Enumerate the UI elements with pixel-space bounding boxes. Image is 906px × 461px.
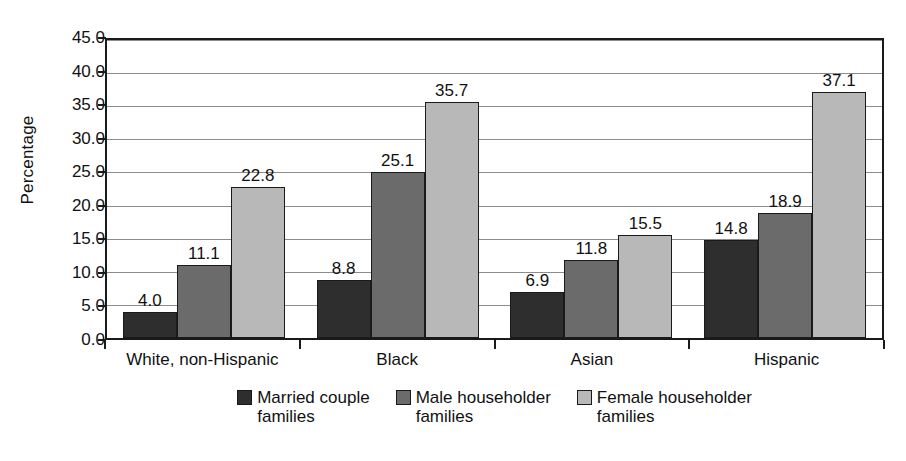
bar[interactable]: 15.5: [618, 235, 672, 338]
bar[interactable]: 11.1: [177, 265, 231, 339]
y-tick-label: 25.0: [41, 162, 105, 182]
plot-area: 4.011.122.88.825.135.76.911.815.514.818.…: [105, 38, 884, 340]
bar[interactable]: 22.8: [231, 187, 285, 338]
legend-label-line1: Married couple: [257, 388, 369, 407]
bar-value-label: 14.8: [715, 219, 748, 239]
legend-label: Married couplefamilies: [257, 388, 369, 426]
x-tick-mark: [299, 340, 301, 349]
y-tick-label: 20.0: [41, 196, 105, 216]
bar-slot: 4.0: [123, 40, 177, 338]
legend-item[interactable]: Married couplefamilies: [237, 388, 369, 426]
bar[interactable]: 8.8: [317, 280, 371, 338]
bar-value-label: 11.8: [575, 239, 607, 259]
bar-slot: 8.8: [317, 40, 371, 338]
bar-value-label: 22.8: [241, 166, 274, 186]
bar-value-label: 11.1: [188, 244, 220, 264]
bar-slot: 37.1: [812, 40, 866, 338]
bar[interactable]: 37.1: [812, 92, 866, 338]
bar-chart-figure: Percentage 0.05.010.015.020.025.030.035.…: [0, 0, 906, 461]
bar-slot: 11.8: [564, 40, 618, 338]
bar-slot: 11.1: [177, 40, 231, 338]
bar-group: 14.818.937.1: [688, 40, 882, 338]
x-axis-category-label: Hispanic: [689, 350, 884, 370]
legend-swatch-icon: [237, 390, 252, 405]
bar-value-label: 15.5: [629, 214, 662, 234]
x-axis-ticks: [105, 340, 884, 350]
y-tick-label: 5.0: [41, 296, 105, 316]
bar[interactable]: 6.9: [510, 292, 564, 338]
bar-group: 8.825.135.7: [301, 40, 495, 338]
bar-value-label: 25.1: [381, 151, 414, 171]
y-tick-label: 15.0: [41, 229, 105, 249]
bar-value-label: 4.0: [138, 291, 162, 311]
bar[interactable]: 14.8: [704, 240, 758, 338]
bar-value-label: 37.1: [823, 71, 856, 91]
bar[interactable]: 18.9: [758, 213, 812, 338]
bar-slot: 14.8: [704, 40, 758, 338]
legend-label-line2: families: [257, 407, 369, 426]
bar-slot: 15.5: [618, 40, 672, 338]
bar-group: 6.911.815.5: [495, 40, 689, 338]
y-tick-label: 45.0: [41, 28, 105, 48]
bar[interactable]: 11.8: [564, 260, 618, 338]
bar-slot: 25.1: [371, 40, 425, 338]
x-tick-mark: [883, 340, 885, 349]
bar-value-label: 8.8: [332, 259, 356, 279]
x-tick-mark: [494, 340, 496, 349]
bar-value-label: 18.9: [769, 192, 802, 212]
bar-value-label: 6.9: [526, 271, 550, 291]
x-tick-mark: [688, 340, 690, 349]
legend-swatch-icon: [577, 390, 592, 405]
legend-label-line1: Male householder: [416, 388, 551, 407]
legend-swatch-icon: [396, 390, 411, 405]
x-axis-category-label: Black: [300, 350, 495, 370]
x-tick-mark: [104, 340, 106, 349]
x-axis-category-label: White, non-Hispanic: [105, 350, 300, 370]
bar-groups: 4.011.122.88.825.135.76.911.815.514.818.…: [107, 40, 882, 338]
y-tick-label: 40.0: [41, 62, 105, 82]
x-axis-category-label: Asian: [495, 350, 690, 370]
legend-label: Female householderfamilies: [597, 388, 752, 426]
legend-label-line1: Female householder: [597, 388, 752, 407]
bar-slot: 35.7: [425, 40, 479, 338]
legend-item[interactable]: Male householderfamilies: [396, 388, 551, 426]
y-axis: 0.05.010.015.020.025.030.035.040.045.0: [0, 38, 105, 340]
y-tick-label: 10.0: [41, 263, 105, 283]
bar[interactable]: 4.0: [123, 312, 177, 338]
y-tick-label: 0.0: [41, 330, 105, 350]
chart-legend: Married couplefamiliesMale householderfa…: [105, 388, 884, 426]
legend-item[interactable]: Female householderfamilies: [577, 388, 752, 426]
y-tick-label: 30.0: [41, 129, 105, 149]
bar-slot: 22.8: [231, 40, 285, 338]
legend-label-line2: families: [416, 407, 551, 426]
bar-group: 4.011.122.8: [107, 40, 301, 338]
bar-value-label: 35.7: [435, 81, 468, 101]
x-axis-labels: White, non-HispanicBlackAsianHispanic: [105, 350, 884, 370]
legend-label: Male householderfamilies: [416, 388, 551, 426]
y-tick-label: 35.0: [41, 95, 105, 115]
bar-slot: 6.9: [510, 40, 564, 338]
bar[interactable]: 25.1: [371, 172, 425, 338]
bar[interactable]: 35.7: [425, 102, 479, 338]
bar-slot: 18.9: [758, 40, 812, 338]
legend-label-line2: families: [597, 407, 752, 426]
